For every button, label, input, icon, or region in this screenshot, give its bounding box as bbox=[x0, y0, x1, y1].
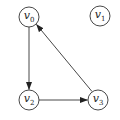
node-v0-subscript: 0 bbox=[30, 16, 34, 24]
node-v1-label: v1 bbox=[90, 8, 110, 22]
node-v2-subscript: 2 bbox=[30, 99, 34, 107]
graph-diagram: v0 v1 v2 v3 bbox=[0, 0, 120, 120]
node-v1-subscript: 1 bbox=[101, 15, 105, 23]
node-v2-label: v2 bbox=[19, 92, 39, 106]
node-v3-subscript: 3 bbox=[99, 99, 103, 107]
node-v3-label: v3 bbox=[88, 92, 108, 106]
edge-v3-v0 bbox=[37, 25, 93, 92]
node-v0-label: v0 bbox=[19, 9, 39, 23]
